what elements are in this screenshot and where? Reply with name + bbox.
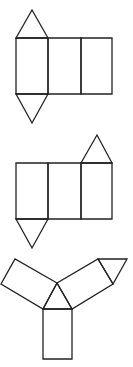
net-2-triangle-top: [81, 135, 112, 163]
net-3: [1, 259, 127, 359]
net-3-rect-bottom-arm: [43, 309, 72, 359]
net-1-rect-middle: [48, 38, 81, 94]
net-1-rect-right: [81, 38, 112, 94]
net-3-rect-left-arm: [1, 259, 57, 309]
net-2-rect-right: [81, 163, 112, 219]
net-1-rect-left: [16, 38, 48, 94]
net-1: [16, 10, 112, 123]
prism-nets-diagram: [0, 0, 133, 367]
net-2-triangle-bottom: [16, 219, 48, 248]
net-3-triangle-end: [98, 259, 127, 284]
net-1-triangle-top: [16, 10, 48, 38]
net-2-rect-middle: [48, 163, 81, 219]
net-2-rect-left: [16, 163, 48, 219]
net-3-triangle-center: [43, 283, 72, 309]
net-1-triangle-bottom: [16, 94, 48, 123]
net-3-rect-right-arm: [57, 259, 113, 309]
net-2: [16, 135, 112, 248]
